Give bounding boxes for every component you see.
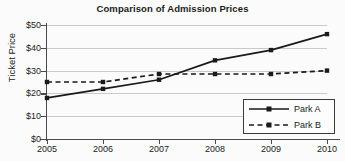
- x-tick-label: 2005: [37, 144, 57, 154]
- data-point-marker: [213, 72, 217, 76]
- y-tick-label: $0: [3, 134, 41, 144]
- x-axis-line: [40, 139, 340, 140]
- data-point-marker: [45, 80, 49, 84]
- data-point-marker: [269, 48, 273, 52]
- data-point-marker: [325, 68, 329, 72]
- legend-swatch-solid-line: [248, 102, 290, 116]
- data-point-marker: [213, 58, 217, 62]
- series-line: [47, 34, 327, 98]
- y-tick-label: $30: [3, 66, 41, 76]
- data-point-marker: [101, 80, 105, 84]
- chart-title: Comparison of Admission Prices: [0, 3, 345, 14]
- data-point-marker: [269, 72, 273, 76]
- chart-container: Comparison of Admission Prices Ticket Pr…: [0, 0, 345, 161]
- data-point-marker: [101, 87, 105, 91]
- x-tick-label: 2010: [317, 144, 337, 154]
- chart-legend: Park A Park B: [243, 99, 335, 134]
- x-tick-label: 2007: [149, 144, 169, 154]
- data-point-marker: [157, 78, 161, 82]
- x-tick-label: 2006: [93, 144, 113, 154]
- series-park-a: [45, 32, 329, 100]
- legend-item-park-b[interactable]: Park B: [244, 117, 334, 133]
- data-point-marker: [325, 32, 329, 36]
- data-point-marker: [157, 72, 161, 76]
- legend-label-park-a: Park A: [294, 104, 321, 114]
- series-line: [47, 71, 327, 82]
- legend-label-park-b: Park B: [294, 120, 321, 130]
- y-tick-label: $40: [3, 43, 41, 53]
- y-tick-label: $20: [3, 88, 41, 98]
- legend-item-park-a[interactable]: Park A: [244, 101, 334, 117]
- y-tick-label: $50: [3, 20, 41, 30]
- x-tick-label: 2009: [261, 144, 281, 154]
- legend-swatch-dashed-line: [248, 118, 290, 132]
- y-tick-label: $10: [3, 111, 41, 121]
- x-tick-label: 2008: [205, 144, 225, 154]
- data-point-marker: [45, 96, 49, 100]
